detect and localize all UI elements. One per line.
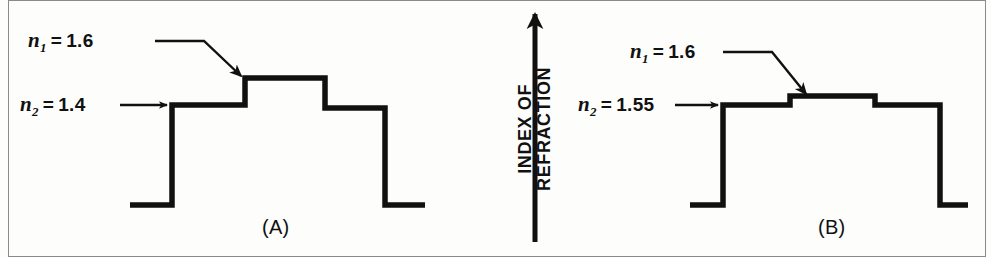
subscript-n1-panel-a: 1: [40, 40, 47, 55]
panel-caption-b: (B): [818, 216, 846, 239]
leader-line-n1-panel-a: [155, 41, 241, 76]
label-n1-panel-b: n1=1.6: [630, 39, 696, 67]
equals-n2-panel-b: =: [597, 94, 616, 115]
subscript-n2-panel-b: 2: [590, 104, 597, 119]
value-n1-panel-a: 1.6: [66, 30, 93, 51]
profile-trace-panel-a: [130, 78, 425, 205]
value-n1-panel-b: 1.6: [668, 41, 695, 62]
symbol-n1-panel-a: n: [28, 28, 40, 52]
label-n2-panel-a: n2=1.4: [20, 92, 86, 120]
axis-title-index-of-refraction: INDEX OF REFRACTION: [516, 49, 554, 209]
value-n2-panel-a: 1.4: [58, 94, 85, 115]
symbol-n2-panel-b: n: [578, 92, 590, 116]
equals-n1-panel-a: =: [47, 30, 66, 51]
leader-line-n1-panel-b: [723, 52, 806, 94]
value-n2-panel-b: 1.55: [616, 94, 654, 115]
symbol-n2-panel-a: n: [20, 92, 32, 116]
equals-n1-panel-b: =: [649, 41, 668, 62]
panel-caption-a: (A): [262, 216, 290, 239]
subscript-n2-panel-a: 2: [32, 104, 39, 119]
subscript-n1-panel-b: 1: [642, 51, 649, 66]
label-n2-panel-b: n2=1.55: [578, 92, 654, 120]
axis-title-line-1: INDEX OF: [515, 84, 535, 174]
equals-n2-panel-a: =: [39, 94, 58, 115]
axis-title-line-2: REFRACTION: [535, 49, 554, 209]
symbol-n1-panel-b: n: [630, 39, 642, 63]
label-n1-panel-a: n1=1.6: [28, 28, 94, 56]
profile-trace-panel-b: [690, 96, 968, 205]
figure-root: n1=1.6 n2=1.4 (A) INDEX OF REFRACTION n1…: [0, 0, 991, 257]
